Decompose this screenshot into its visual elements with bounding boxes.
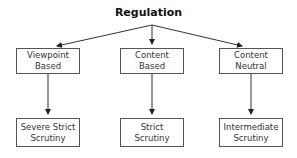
intermediate-scrutiny-box: IntermediateScrutiny	[219, 118, 283, 147]
box-label: Content	[135, 50, 169, 61]
content-neutral-box: ContentNeutral	[219, 48, 283, 74]
diagram-title: Regulation	[0, 6, 297, 19]
box-label: Strict	[134, 122, 169, 133]
box-label: Intermediate	[224, 122, 279, 133]
box-label: Based	[27, 61, 69, 72]
box-label: Viewpoint	[27, 50, 69, 61]
box-label: Scrutiny	[21, 133, 76, 144]
box-label: Based	[135, 61, 169, 72]
box-label: Neutral	[234, 61, 268, 72]
viewpoint-based-box: ViewpointBased	[16, 48, 80, 74]
box-label: Content	[234, 50, 268, 61]
box-label: Scrutiny	[224, 133, 279, 144]
strict-scrutiny-box: StrictScrutiny	[120, 118, 184, 147]
content-based-box: ContentBased	[120, 48, 184, 74]
box-label: Severe Strict	[21, 122, 76, 133]
box-label: Scrutiny	[134, 133, 169, 144]
severe-strict-scrutiny-box: Severe StrictScrutiny	[16, 118, 80, 147]
